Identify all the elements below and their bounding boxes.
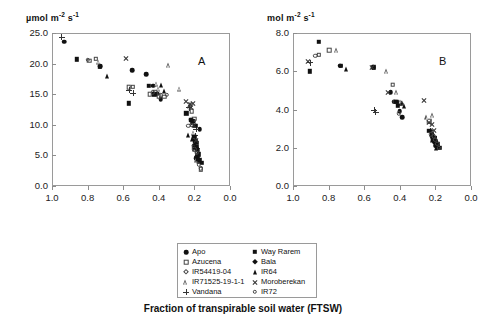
x-axis-title: Fraction of transpirable soil water (FTS… — [0, 303, 486, 314]
legend-item: IR54419-04 — [183, 267, 245, 277]
x-axis-tick — [400, 186, 401, 190]
panel-a-unit-label: µmol m-2 s-1 — [26, 11, 79, 23]
panel-b: mol m-2 s-1 B 0.02.04.06.08.01.00.80.60.… — [243, 0, 486, 215]
y-tick-label: 20.0 — [16, 58, 48, 69]
x-tick-label: 0.8 — [314, 192, 344, 203]
y-axis-tick — [293, 110, 297, 111]
legend-item: IR64 — [252, 267, 305, 277]
y-tick-label: 5.0 — [16, 149, 48, 160]
x-tick-label: 0.6 — [349, 192, 379, 203]
legend-column-left: ApoAzucenaIR54419-04IR71525-19-1-1Vandan… — [183, 247, 245, 297]
x-tick-label: 0.2 — [420, 192, 450, 203]
x-tick-label: 0.0 — [215, 192, 245, 203]
legend-item-label: Bala — [261, 257, 276, 267]
y-axis-tick — [52, 125, 56, 126]
x-axis-tick — [194, 186, 195, 190]
x-tick-label: 0.0 — [456, 192, 486, 203]
x-axis-tick — [293, 186, 294, 190]
y-tick-label: 6.0 — [257, 65, 289, 76]
x-axis-tick — [123, 186, 124, 190]
y-axis-tick — [52, 64, 56, 65]
legend-item-label: IR71525-19-1-1 — [192, 277, 245, 287]
legend-item-label: Vandana — [192, 287, 221, 297]
y-axis-tick — [52, 94, 56, 95]
y-tick-label: 0.0 — [16, 180, 48, 191]
legend-item: Way Rarem — [252, 247, 305, 257]
y-tick-label: 15.0 — [16, 88, 48, 99]
x-tick-label: 0.4 — [144, 192, 174, 203]
x-tick-label: 1.0 — [37, 192, 67, 203]
legend-column-right: Way RaremBalaIR64MoroberekanIR72 — [252, 247, 305, 297]
y-tick-label: 4.0 — [257, 104, 289, 115]
x-axis-tick — [329, 186, 330, 190]
x-axis-tick — [88, 186, 89, 190]
panel-b-letter: B — [439, 55, 446, 67]
x-tick-label: 1.0 — [278, 192, 308, 203]
legend-item-label: Azucena — [192, 257, 221, 267]
y-tick-label: 10.0 — [16, 119, 48, 130]
legend-item: Vandana — [183, 287, 245, 297]
panel-b-unit-label: mol m-2 s-1 — [267, 11, 315, 23]
y-tick-label: 25.0 — [16, 27, 48, 38]
panel-a: µmol m-2 s-1 A 0.05.010.015.020.025.01.0… — [0, 0, 243, 215]
legend-item: Moroberekan — [252, 277, 305, 287]
x-tick-label: 0.4 — [385, 192, 415, 203]
y-tick-label: 2.0 — [257, 142, 289, 153]
legend-item-label: IR72 — [261, 287, 277, 297]
x-axis-tick — [52, 186, 53, 190]
legend-item: IR71525-19-1-1 — [183, 277, 245, 287]
x-tick-label: 0.2 — [179, 192, 209, 203]
y-axis-tick — [293, 148, 297, 149]
legend-item: IR72 — [252, 287, 305, 297]
x-axis-tick — [230, 186, 231, 190]
legend: ApoAzucenaIR54419-04IR71525-19-1-1Vandan… — [177, 243, 317, 298]
y-axis-tick — [52, 155, 56, 156]
legend-item: Bala — [252, 257, 305, 267]
legend-item-label: Apo — [192, 247, 205, 257]
x-tick-label: 0.8 — [73, 192, 103, 203]
y-axis-tick — [293, 33, 297, 34]
legend-item-label: IR64 — [261, 267, 277, 277]
y-axis-tick — [293, 71, 297, 72]
x-axis-tick — [435, 186, 436, 190]
x-axis-tick — [159, 186, 160, 190]
legend-item-label: IR54419-04 — [192, 267, 231, 277]
x-axis-tick — [364, 186, 365, 190]
legend-item-label: Way Rarem — [261, 247, 300, 257]
x-tick-label: 0.6 — [108, 192, 138, 203]
y-tick-label: 0.0 — [257, 180, 289, 191]
legend-item: Azucena — [183, 257, 245, 267]
y-axis-tick — [52, 33, 56, 34]
legend-item: Apo — [183, 247, 245, 257]
x-axis-tick — [471, 186, 472, 190]
y-tick-label: 8.0 — [257, 27, 289, 38]
legend-item-label: Moroberekan — [261, 277, 305, 287]
panel-a-letter: A — [198, 55, 205, 67]
